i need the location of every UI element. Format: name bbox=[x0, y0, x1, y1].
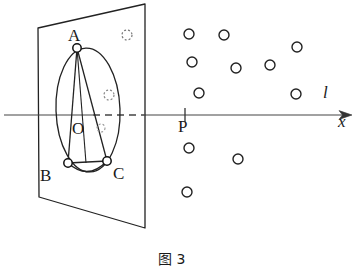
vertex-marker-c bbox=[103, 157, 111, 165]
triangle-side-bc bbox=[68, 161, 107, 163]
label-center-o: O bbox=[72, 120, 84, 137]
scatter-point bbox=[194, 88, 204, 98]
scatter-point-group bbox=[182, 29, 302, 197]
dotted-circle-upper bbox=[122, 30, 132, 40]
label-axis-x: x bbox=[338, 113, 346, 130]
label-vertex-b: B bbox=[40, 167, 51, 184]
figure-caption: 图 3 bbox=[158, 252, 185, 266]
label-vertex-c: C bbox=[113, 165, 124, 182]
scatter-point bbox=[291, 89, 301, 99]
scatter-point bbox=[184, 29, 194, 39]
scatter-point bbox=[231, 63, 241, 73]
scatter-point bbox=[182, 187, 192, 197]
scatter-point bbox=[233, 154, 243, 164]
label-line-l: l bbox=[323, 84, 328, 101]
vertex-marker-b bbox=[64, 159, 72, 167]
inclined-plane-quadrilateral bbox=[38, 4, 145, 228]
label-vertex-a: A bbox=[68, 27, 80, 44]
dotted-circle-middle bbox=[104, 90, 114, 100]
scatter-point bbox=[265, 60, 275, 70]
triangle-side-ab bbox=[68, 48, 77, 163]
scatter-point bbox=[292, 42, 302, 52]
scatter-point bbox=[187, 57, 197, 67]
vertex-marker-a bbox=[73, 44, 81, 52]
scatter-point bbox=[219, 30, 229, 40]
label-point-p: P bbox=[178, 118, 187, 135]
scatter-point bbox=[184, 143, 194, 153]
inscribed-ellipse bbox=[54, 47, 122, 173]
